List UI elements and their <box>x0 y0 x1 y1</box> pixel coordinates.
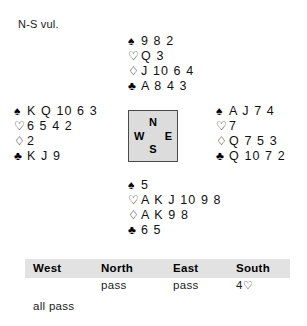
spade-icon: ♠ <box>128 34 141 49</box>
auction-header-east: East <box>173 262 199 274</box>
hand-west-spades-row: ♠ K Q 10 6 3 <box>14 104 98 119</box>
hand-south-hearts: A K J 10 9 8 <box>141 193 222 208</box>
hand-east-clubs: Q 10 7 2 <box>229 149 286 164</box>
hand-east-clubs-row: ♣ Q 10 7 2 <box>216 149 286 164</box>
hand-west-hearts: 6 5 4 2 <box>27 119 73 134</box>
hand-north: ♠ 9 8 2 ♡ Q 3 ♢ J 10 6 4 ♣ A 8 4 3 <box>128 34 194 94</box>
hand-east: ♠ A J 7 4 ♡ 7 ♢ Q 7 5 3 ♣ Q 10 7 2 <box>216 104 286 164</box>
hand-north-spades-row: ♠ 9 8 2 <box>128 34 194 49</box>
hand-east-diamonds: Q 7 5 3 <box>229 134 278 149</box>
spade-icon: ♠ <box>128 178 141 193</box>
hand-east-hearts: 7 <box>229 119 237 134</box>
hand-south-diamonds: A K 9 8 <box>141 208 189 223</box>
hand-north-spades: 9 8 2 <box>141 34 174 49</box>
hand-north-diamonds-row: ♢ J 10 6 4 <box>128 64 194 79</box>
heart-icon: ♡ <box>128 49 141 64</box>
auction-bid-row: pass pass 4♡ <box>25 278 290 293</box>
hand-south-spades: 5 <box>141 178 149 193</box>
spade-icon: ♠ <box>216 104 229 119</box>
hand-west-clubs-row: ♣ K J 9 <box>14 149 98 164</box>
hand-north-hearts-row: ♡ Q 3 <box>128 49 194 64</box>
hand-south: ♠ 5 ♡ A K J 10 9 8 ♢ A K 9 8 ♣ 6 5 <box>128 178 222 238</box>
compass-east-label: E <box>165 131 172 142</box>
hand-west-hearts-row: ♡ 6 5 4 2 <box>14 119 98 134</box>
hand-west-spades: K Q 10 6 3 <box>27 104 98 119</box>
heart-icon: ♡ <box>14 119 27 134</box>
bid-south: 4♡ <box>236 279 253 292</box>
compass-south-label: S <box>149 144 156 155</box>
auction-header-south: South <box>236 262 270 274</box>
hand-west-clubs: K J 9 <box>27 149 61 164</box>
auction-header-north: North <box>101 262 133 274</box>
bid-north: pass <box>101 279 127 291</box>
hand-south-diamonds-row: ♢ A K 9 8 <box>128 208 222 223</box>
heart-icon: ♡ <box>216 119 229 134</box>
hand-north-clubs: A 8 4 3 <box>141 79 188 94</box>
bid-east: pass <box>173 279 199 291</box>
auction-table: West North East South pass pass 4♡ <box>25 259 290 293</box>
hand-east-hearts-row: ♡ 7 <box>216 119 286 134</box>
club-icon: ♣ <box>216 149 229 164</box>
hand-north-diamonds: J 10 6 4 <box>141 64 194 79</box>
hand-north-hearts: Q 3 <box>141 49 164 64</box>
hand-west: ♠ K Q 10 6 3 ♡ 6 5 4 2 ♢ 2 ♣ K J 9 <box>14 104 98 164</box>
hand-south-spades-row: ♠ 5 <box>128 178 222 193</box>
auction-all-pass-note: all pass <box>33 300 74 312</box>
auction-header-west: West <box>33 262 61 274</box>
vulnerability-label: N-S vul. <box>18 18 59 30</box>
spade-icon: ♠ <box>14 104 27 119</box>
diamond-icon: ♢ <box>14 134 27 149</box>
hand-north-clubs-row: ♣ A 8 4 3 <box>128 79 194 94</box>
club-icon: ♣ <box>14 149 27 164</box>
compass-west-label: W <box>134 131 144 142</box>
hand-east-spades-row: ♠ A J 7 4 <box>216 104 286 119</box>
diamond-icon: ♢ <box>216 134 229 149</box>
compass-north-label: N <box>149 117 157 128</box>
heart-icon: ♡ <box>128 193 141 208</box>
diamond-icon: ♢ <box>128 208 141 223</box>
compass-box: N W E S <box>128 110 178 162</box>
diamond-icon: ♢ <box>128 64 141 79</box>
hand-east-spades: A J 7 4 <box>229 104 275 119</box>
hand-west-diamonds-row: ♢ 2 <box>14 134 98 149</box>
heart-icon: ♡ <box>243 279 253 291</box>
club-icon: ♣ <box>128 79 141 94</box>
auction-header-row: West North East South <box>25 259 290 278</box>
hand-east-diamonds-row: ♢ Q 7 5 3 <box>216 134 286 149</box>
hand-west-diamonds: 2 <box>27 134 35 149</box>
club-icon: ♣ <box>128 223 141 238</box>
hand-south-clubs: 6 5 <box>141 223 162 238</box>
hand-south-clubs-row: ♣ 6 5 <box>128 223 222 238</box>
hand-south-hearts-row: ♡ A K J 10 9 8 <box>128 193 222 208</box>
bid-south-level: 4 <box>236 279 243 291</box>
